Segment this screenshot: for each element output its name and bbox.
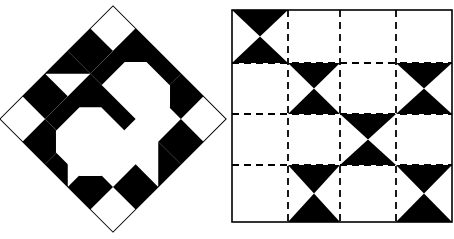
quilt-figure-svg (0, 0, 454, 239)
figure-canvas (0, 0, 454, 239)
